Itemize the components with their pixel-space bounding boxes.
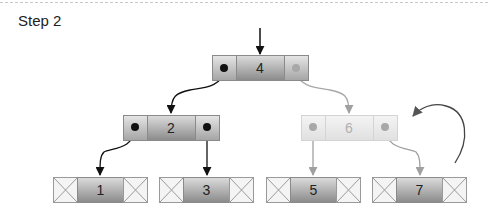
leaf-node-3: 3 <box>160 178 254 203</box>
tree-node-4: 4 <box>213 56 309 81</box>
node-value: 1 <box>97 182 105 198</box>
leaf-node-7: 7 <box>373 178 467 203</box>
tree-diagram: 4 2 6 1 3 5 <box>0 0 488 214</box>
node-value: 6 <box>345 120 353 136</box>
left-pointer-dot <box>309 123 317 131</box>
right-pointer-dot <box>292 64 300 72</box>
left-pointer-dot <box>131 123 139 131</box>
leaf-node-5: 5 <box>267 178 361 203</box>
right-pointer-dot <box>203 123 211 131</box>
right-pointer-dot <box>381 123 389 131</box>
tree-node-6-faded: 6 <box>302 116 398 141</box>
node-value: 5 <box>310 182 318 198</box>
node-value: 7 <box>416 182 424 198</box>
leaf-node-1: 1 <box>54 178 148 203</box>
curved-rotation-arrow-icon <box>413 105 465 163</box>
tree-node-2: 2 <box>124 116 220 141</box>
node-value: 4 <box>256 60 264 76</box>
node-value: 3 <box>203 182 211 198</box>
node-value: 2 <box>167 120 175 136</box>
left-pointer-dot <box>220 64 228 72</box>
